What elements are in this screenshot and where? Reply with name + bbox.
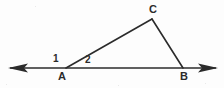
vertex-label-a: A xyxy=(58,71,66,82)
angle-label-1: 1 xyxy=(53,54,59,64)
geometry-figure: A B C 1 2 xyxy=(0,0,224,88)
vertex-label-c: C xyxy=(149,4,157,15)
scan-speck xyxy=(6,84,7,85)
geometry-canvas xyxy=(0,0,224,88)
scan-speck xyxy=(35,6,36,7)
scan-speck xyxy=(118,85,119,86)
vertex-label-b: B xyxy=(180,71,188,82)
angle-label-2: 2 xyxy=(85,55,91,65)
figure-background xyxy=(0,0,224,88)
scan-speck xyxy=(205,83,206,84)
